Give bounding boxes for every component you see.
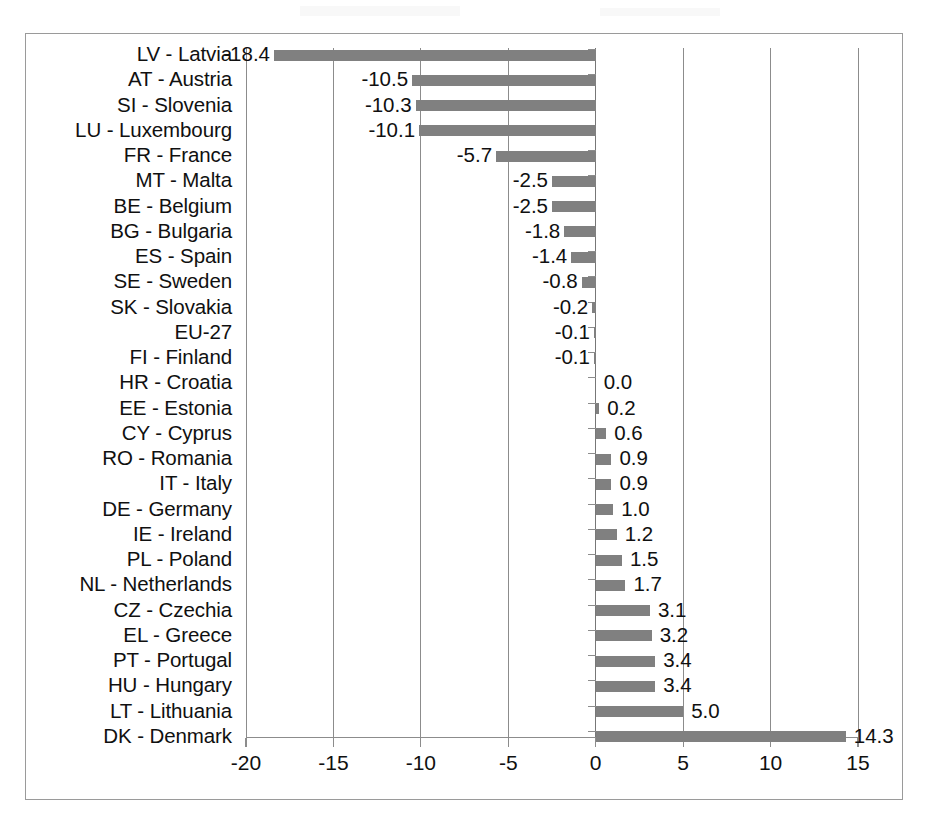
bar-value-label: 0.9 — [619, 448, 648, 468]
bar-value-label: -1.8 — [525, 221, 560, 241]
category-label: DE - Germany — [102, 499, 232, 519]
bar-value-label: -0.1 — [555, 322, 590, 342]
bar-value-label: -5.7 — [457, 145, 492, 165]
bar — [592, 302, 595, 313]
category-label: PT - Portugal — [113, 650, 232, 670]
category-label: LV - Latvia — [137, 44, 232, 64]
bar-value-label: -0.2 — [553, 297, 588, 317]
category-label: AT - Austria — [128, 69, 232, 89]
bar-value-label: 0.6 — [614, 423, 643, 443]
x-axis-tick-label: -10 — [406, 752, 436, 774]
category-label: CY - Cyprus — [122, 423, 232, 443]
bar-value-label: -18.4 — [223, 44, 270, 64]
x-axis-tick-label: -5 — [499, 752, 518, 774]
bar — [596, 529, 617, 540]
bar-value-label: 0.2 — [607, 398, 636, 418]
bar — [564, 226, 595, 237]
bar-chart: LV - Latvia-18.4AT - Austria-10.5SI - Sl… — [0, 0, 925, 821]
category-label: EE - Estonia — [119, 398, 232, 418]
x-axis-tick-label: 10 — [759, 752, 782, 774]
category-label: EL - Greece — [123, 625, 232, 645]
bar — [596, 504, 613, 515]
bar — [594, 327, 596, 338]
category-label: LT - Lithuania — [110, 701, 232, 721]
bar-value-label: -2.5 — [513, 196, 548, 216]
category-label: SK - Slovakia — [110, 297, 232, 317]
bar-value-label: -10.5 — [361, 69, 408, 89]
bar — [596, 479, 612, 490]
category-label: MT - Malta — [135, 170, 232, 190]
bar-value-label: 3.1 — [658, 600, 687, 620]
x-axis-tick — [420, 738, 421, 747]
category-label: NL - Netherlands — [79, 574, 232, 594]
bar — [596, 454, 612, 465]
category-label: FI - Finland — [130, 347, 232, 367]
bar — [416, 100, 596, 111]
category-label: FR - France — [124, 145, 232, 165]
bar — [412, 75, 596, 86]
category-label: SE - Sweden — [113, 271, 232, 291]
category-label: BE - Belgium — [114, 196, 232, 216]
category-label: RO - Romania — [102, 448, 232, 468]
x-axis-tick-label: 0 — [590, 752, 602, 774]
bar — [594, 353, 596, 364]
bar — [596, 580, 626, 591]
category-label: BG - Bulgaria — [110, 221, 232, 241]
bar-value-label: 0.0 — [604, 372, 633, 392]
bar — [596, 555, 622, 566]
bar-value-label: 1.0 — [621, 499, 650, 519]
x-axis-tick — [508, 738, 509, 747]
category-label: PL - Poland — [127, 549, 232, 569]
bar — [419, 125, 596, 136]
bar-value-label: 0.9 — [619, 473, 648, 493]
bar-value-label: 1.5 — [630, 549, 659, 569]
bar — [596, 605, 650, 616]
category-label: SI - Slovenia — [117, 95, 232, 115]
bar-value-label: 1.7 — [633, 574, 662, 594]
category-label: LU - Luxembourg — [75, 120, 232, 140]
bar — [596, 630, 652, 641]
bar — [596, 706, 683, 717]
x-axis-tick-label: 5 — [677, 752, 689, 774]
bar — [596, 428, 606, 439]
bar-value-label: 3.2 — [660, 625, 689, 645]
category-label: CZ - Czechia — [114, 600, 232, 620]
category-label: ES - Spain — [135, 246, 232, 266]
bar-value-label: -2.5 — [513, 170, 548, 190]
category-label: HU - Hungary — [108, 675, 232, 695]
category-label: EU-27 — [174, 322, 232, 342]
x-axis-tick-label: 15 — [846, 752, 869, 774]
bar — [596, 403, 599, 414]
bar-value-label: 1.2 — [625, 524, 654, 544]
x-axis-tick — [333, 738, 334, 747]
bar — [274, 50, 596, 61]
scan-artifact — [300, 6, 460, 16]
category-label: DK - Denmark — [103, 726, 232, 746]
bar-value-label: -0.1 — [555, 347, 590, 367]
bar — [552, 176, 596, 187]
bar-value-label: 14.3 — [854, 726, 894, 746]
scan-artifact — [600, 8, 720, 16]
bar — [552, 201, 596, 212]
bar-value-label: 3.4 — [663, 650, 692, 670]
bar — [571, 252, 595, 263]
bar-value-label: -10.1 — [368, 120, 415, 140]
bar — [582, 277, 596, 288]
x-axis-tick-label: -20 — [231, 752, 261, 774]
x-axis-tick-label: -15 — [318, 752, 348, 774]
category-label: IT - Italy — [159, 473, 232, 493]
bar-value-label: -10.3 — [365, 95, 412, 115]
category-label: IE - Ireland — [133, 524, 232, 544]
bar — [496, 151, 596, 162]
bar-value-label: -0.8 — [542, 271, 577, 291]
bar-value-label: 5.0 — [691, 701, 720, 721]
bar-value-label: -1.4 — [532, 246, 567, 266]
bar-value-label: 3.4 — [663, 675, 692, 695]
bar — [596, 681, 655, 692]
bar — [596, 656, 655, 667]
category-label: HR - Croatia — [119, 372, 232, 392]
bar — [596, 731, 846, 742]
x-axis-tick — [245, 738, 246, 747]
